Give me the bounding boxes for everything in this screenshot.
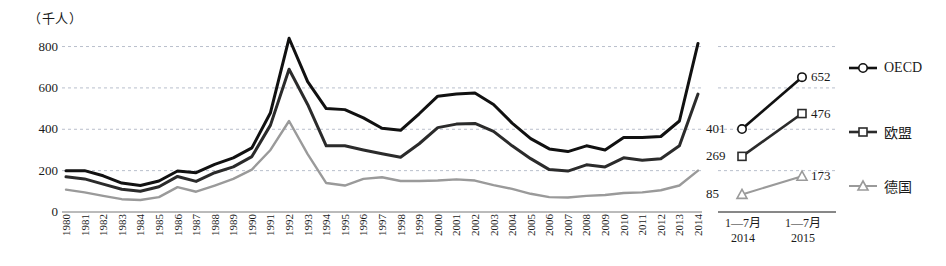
right-value-2015-欧盟: 476	[811, 106, 831, 122]
plot-svg	[62, 30, 702, 214]
y-axis-tick-200: 200	[39, 163, 59, 179]
right-marker-2014-欧盟	[738, 152, 746, 160]
x-axis-tick-labels: 1980198119821983198419851986198719881989…	[62, 214, 702, 266]
x-axis-tick-2006: 2006	[543, 214, 555, 236]
x-axis-tick-2012: 2012	[655, 214, 667, 236]
right-x-label-1: 1—7月2015	[772, 216, 834, 246]
legend-item-德国[interactable]: 德国	[848, 176, 912, 196]
x-axis-tick-2011: 2011	[636, 214, 648, 236]
x-axis-tick-1986: 1986	[172, 214, 184, 236]
x-axis-tick-1981: 1981	[79, 214, 91, 236]
x-axis-tick-1990: 1990	[246, 214, 258, 236]
right-value-2014-德国: 85	[706, 186, 719, 202]
right-marker-2014-OECD	[738, 125, 746, 133]
x-axis-tick-1995: 1995	[339, 214, 351, 236]
x-axis-tick-1993: 1993	[302, 214, 314, 236]
x-axis-tick-2003: 2003	[488, 214, 500, 236]
x-axis-tick-2002: 2002	[469, 214, 481, 236]
x-axis-tick-1992: 1992	[283, 214, 295, 236]
legend-marker-triangle-icon	[848, 179, 878, 193]
x-axis-tick-1999: 1999	[413, 214, 425, 236]
legend-item-欧盟[interactable]: 欧盟	[848, 122, 912, 142]
right-marker-2015-德国	[797, 171, 807, 180]
x-axis-tick-2010: 2010	[618, 214, 630, 236]
right-marker-2015-OECD	[798, 73, 806, 81]
right-panel-x-labels: 1—7月20141—7月2015	[712, 214, 842, 266]
right-x-label-year-1: 2015	[772, 231, 834, 246]
legend-item-OECD[interactable]: OECD	[848, 60, 922, 76]
chart-container: （千人） 0200400600800 198019811982198319841…	[0, 0, 946, 266]
x-axis-tick-2007: 2007	[562, 214, 574, 236]
y-axis-tick-800: 800	[39, 39, 59, 55]
right-value-2015-OECD: 652	[811, 69, 831, 85]
x-axis-tick-2013: 2013	[673, 214, 685, 236]
legend-marker-circle-icon	[848, 61, 878, 75]
x-axis-tick-1998: 1998	[395, 214, 407, 236]
x-axis-tick-1988: 1988	[209, 214, 221, 236]
right-value-2014-OECD: 401	[706, 121, 726, 137]
right-comparison-panel: 40165226947685173	[718, 30, 836, 212]
x-axis-tick-1982: 1982	[97, 214, 109, 236]
legend-marker-square-icon	[848, 125, 878, 139]
x-axis-tick-2009: 2009	[599, 214, 611, 236]
x-axis-tick-1989: 1989	[227, 214, 239, 236]
line-德国	[66, 121, 698, 200]
y-axis-tick-400: 400	[39, 121, 59, 137]
x-axis-tick-2014: 2014	[692, 214, 704, 236]
y-axis-tick-0: 0	[52, 204, 59, 220]
x-axis-tick-2005: 2005	[525, 214, 537, 236]
x-axis-tick-1983: 1983	[116, 214, 128, 236]
x-axis-tick-1996: 1996	[357, 214, 369, 236]
legend-label-德国: 德国	[884, 176, 912, 196]
x-axis-tick-1994: 1994	[320, 214, 332, 236]
right-value-2014-欧盟: 269	[706, 148, 726, 164]
x-axis-tick-1984: 1984	[134, 214, 146, 236]
y-axis-tick-600: 600	[39, 80, 59, 96]
x-axis-tick-2008: 2008	[580, 214, 592, 236]
x-axis-tick-1987: 1987	[190, 214, 202, 236]
right-x-label-period-0: 1—7月	[712, 216, 774, 231]
x-axis-tick-1980: 1980	[60, 214, 72, 236]
x-axis-tick-2000: 2000	[432, 214, 444, 236]
y-axis-tick-labels: 0200400600800	[14, 0, 58, 266]
right-value-2015-德国: 173	[811, 168, 831, 184]
main-line-chart-plot	[62, 30, 702, 212]
right-panel-svg	[718, 30, 836, 214]
x-axis-tick-1997: 1997	[376, 214, 388, 236]
x-axis-tick-1991: 1991	[264, 214, 276, 236]
x-axis-tick-2004: 2004	[506, 214, 518, 236]
right-line-德国	[742, 176, 802, 194]
right-marker-2015-欧盟	[798, 110, 806, 118]
x-axis-tick-1985: 1985	[153, 214, 165, 236]
x-axis-tick-2001: 2001	[450, 214, 462, 236]
legend-label-OECD: OECD	[884, 60, 922, 76]
line-OECD	[66, 38, 698, 185]
right-x-label-0: 1—7月2014	[712, 216, 774, 246]
right-x-label-year-0: 2014	[712, 231, 774, 246]
right-x-label-period-1: 1—7月	[772, 216, 834, 231]
legend-label-欧盟: 欧盟	[884, 122, 912, 142]
